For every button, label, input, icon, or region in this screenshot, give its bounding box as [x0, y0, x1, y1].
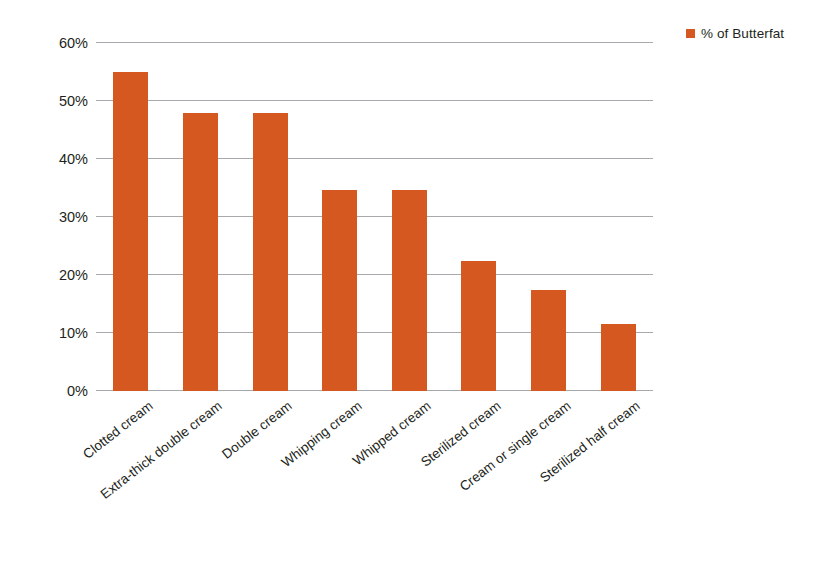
x-axis-tick-label: Extra-thick double cream: [99, 399, 225, 502]
y-axis-tick-label: 0%: [67, 384, 88, 399]
bar: [392, 190, 427, 391]
gridline-60: [96, 42, 653, 43]
bar: [322, 190, 357, 391]
gridline-40: [96, 158, 653, 159]
bar: [113, 72, 148, 391]
y-axis-tick-label: 30%: [59, 210, 88, 225]
bar: [601, 324, 636, 391]
x-axis-tick-label: Double cream: [220, 399, 295, 461]
gridline-30: [96, 216, 653, 217]
bar: [461, 261, 496, 392]
gridline-20: [96, 274, 653, 275]
legend-item-label: % of Butterfat: [701, 27, 784, 41]
y-axis-tick-label: 10%: [59, 326, 88, 341]
plot-area: [96, 43, 653, 391]
x-axis: Clotted creamExtra-thick double creamDou…: [96, 391, 653, 566]
y-axis-tick-label: 50%: [59, 94, 88, 109]
bar-chart: % of Butterfat 0%10%20%30%40%50%60% Clot…: [0, 0, 835, 566]
chart-legend: % of Butterfat: [686, 27, 784, 41]
gridline-10: [96, 332, 653, 333]
y-axis-tick-label: 40%: [59, 152, 88, 167]
x-axis-tick-label: Clotted cream: [81, 399, 156, 461]
y-axis-tick-label: 20%: [59, 268, 88, 283]
bar: [253, 113, 288, 391]
bar: [531, 290, 566, 392]
bar: [183, 113, 218, 391]
gridline-50: [96, 100, 653, 101]
y-axis-tick-label: 60%: [59, 36, 88, 51]
y-axis: 0%10%20%30%40%50%60%: [38, 43, 88, 391]
legend-swatch-icon: [686, 29, 695, 38]
